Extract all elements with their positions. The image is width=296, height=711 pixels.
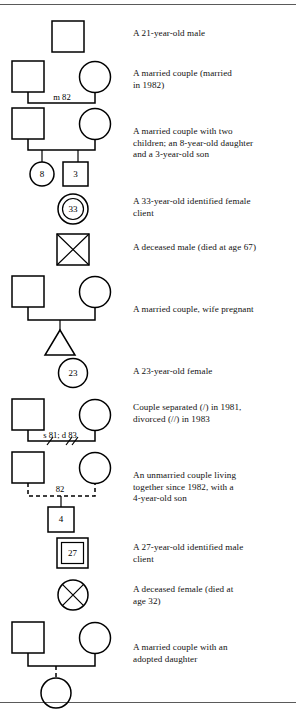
description-line: adopted daughter [133, 654, 293, 666]
row-description: Couple separated (/) in 1981, divorced (… [133, 402, 293, 425]
genogram-symbol-group [0, 576, 130, 620]
adopted-daughter-circle [41, 678, 71, 708]
wife-circle [80, 277, 111, 308]
husband-square [12, 276, 44, 307]
female-age-label: 23 [69, 368, 79, 378]
description-line: A married couple, wife pregnant [133, 304, 293, 316]
marriage-date-label: m 82 [53, 92, 70, 102]
description-line: A 33-year-old identified female [133, 196, 293, 208]
description-line: An unmarried couple living [133, 470, 293, 482]
genogram-symbol-group [0, 14, 130, 62]
description-line: A married couple (married [133, 68, 293, 80]
row-description: A deceased male (died at age 67) [133, 242, 293, 254]
description-line: client [133, 208, 293, 220]
top-horizontal-rule [0, 4, 296, 5]
son-age-label: 4 [59, 514, 64, 524]
description-line: A married couple with two [133, 126, 293, 138]
description-line: children; an 8-year-old daughter [133, 138, 293, 150]
husband-square [12, 61, 44, 92]
description-line: A deceased female (died at [133, 584, 293, 596]
daughter-age-label: 8 [40, 169, 45, 179]
cohabitation-date-label: 82 [56, 484, 65, 494]
mother-circle [80, 109, 111, 140]
legend-row-separated-divorced: s 81; d 83 Couple separated (/) in 1981,… [0, 396, 296, 446]
genogram-symbol-group [0, 618, 130, 700]
mother-circle [80, 623, 111, 654]
row-description: A 27-year-old identified male client [133, 542, 293, 565]
description-line: client [133, 554, 293, 566]
pregnancy-triangle [45, 330, 75, 355]
wife-circle [80, 62, 111, 93]
legend-row-single-female: 23 A 23-year-old female [0, 356, 296, 392]
row-description: A 21-year-old male [133, 28, 293, 40]
identified-male-age-label: 27 [68, 548, 78, 558]
marriage-connector-line [28, 653, 95, 666]
genogram-symbol-group: m 82 [0, 58, 130, 106]
description-line: and a 3-year-old son [133, 149, 293, 161]
genogram-symbol-group: s 81; d 83 [0, 396, 130, 446]
deceased-cross-mark [57, 234, 89, 265]
description-line: age 32) [133, 596, 293, 608]
genogram-symbol-group [0, 272, 130, 356]
description-line: A 27-year-old identified male [133, 542, 293, 554]
row-description: A married couple with two children; an 8… [133, 126, 293, 161]
legend-row-couple-pregnant: A married couple, wife pregnant [0, 272, 296, 356]
father-square [12, 622, 44, 653]
husband-square [12, 399, 44, 430]
description-line: Couple separated (/) in 1981, [133, 402, 293, 414]
genogram-symbol-group: 33 [0, 190, 130, 230]
genogram-symbol-group [0, 230, 130, 272]
genogram-symbol-group: 23 [0, 356, 130, 392]
partner-square [12, 452, 44, 483]
legend-row-deceased-male: A deceased male (died at age 67) [0, 230, 296, 272]
legend-row-unmarried-couple: 82 4 An unmarried couple living together… [0, 448, 296, 532]
genogram-symbol-group: 27 [0, 534, 130, 576]
wife-circle [80, 400, 111, 431]
marriage-connector-line [28, 307, 95, 320]
deceased-cross-mark [62, 584, 83, 605]
description-line: together since 1982, with a [133, 482, 293, 494]
description-line: A 21-year-old male [133, 28, 293, 40]
son-age-label: 3 [73, 169, 78, 179]
genogram-legend-page: A 21-year-old male m 82 A married couple… [0, 0, 296, 711]
father-square [12, 108, 44, 139]
legend-row-married-couple: m 82 A married couple (married in 1982) [0, 58, 296, 106]
legend-row-adopted-daughter: A married couple with an adopted daughte… [0, 618, 296, 700]
genogram-symbol-group: 8 3 [0, 104, 130, 186]
row-description: A 23-year-old female [133, 366, 293, 378]
separation-divorce-label: s 81; d 83 [43, 430, 77, 440]
description-line: A deceased male (died at age 67) [133, 242, 293, 254]
marriage-connector-line [28, 139, 95, 150]
row-description: An unmarried couple living together sinc… [133, 470, 293, 505]
row-description: A married couple with an adopted daughte… [133, 642, 293, 665]
legend-row-deceased-female: A deceased female (died at age 32) [0, 576, 296, 620]
description-line: in 1982) [133, 80, 293, 92]
description-line: 4-year-old son [133, 493, 293, 505]
row-description: A married couple (married in 1982) [133, 68, 293, 91]
genogram-symbol-group: 82 4 [0, 448, 130, 532]
row-description: A 33-year-old identified female client [133, 196, 293, 219]
description-line: A 23-year-old female [133, 366, 293, 378]
legend-row-identified-male-client: 27 A 27-year-old identified male client [0, 534, 296, 576]
row-description: A married couple, wife pregnant [133, 304, 293, 316]
legend-row-couple-two-children: 8 3 A married couple with two children; … [0, 104, 296, 186]
male-square [52, 21, 84, 52]
identified-female-age-label: 33 [69, 204, 79, 214]
partner-circle [80, 453, 111, 484]
legend-row-single-male: A 21-year-old male [0, 14, 296, 62]
description-line: divorced (//) in 1983 [133, 414, 293, 426]
legend-row-identified-female-client: 33 A 33-year-old identified female clien… [0, 190, 296, 230]
row-description: A deceased female (died at age 32) [133, 584, 293, 607]
description-line: A married couple with an [133, 642, 293, 654]
